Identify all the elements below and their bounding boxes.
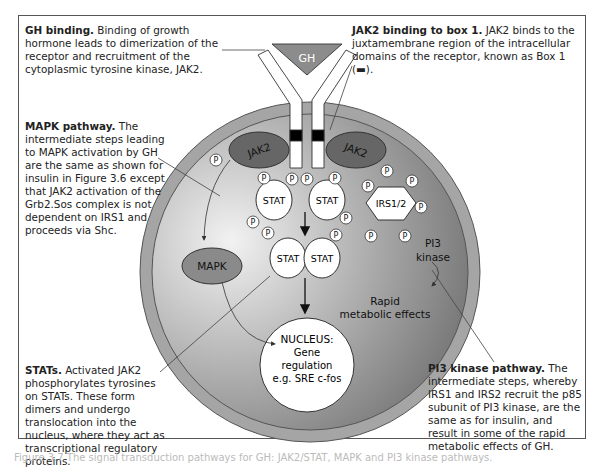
p-label: P [333, 174, 338, 183]
rapid-label: Rapid [370, 295, 400, 307]
p-label: P [410, 177, 415, 186]
p-label: P [290, 175, 295, 184]
mapk-label: MAPK [197, 260, 228, 272]
metabolic-effects-label: metabolic effects [340, 308, 431, 320]
annotation-gh-binding: GH binding. Binding of growth hormone le… [25, 24, 220, 76]
annotation-jak2-box1: JAK2 binding to box 1. JAK2 binds to the… [352, 24, 584, 76]
p-label: P [305, 175, 310, 184]
p-label: P [334, 231, 339, 240]
p-label: P [419, 203, 424, 212]
annotation-title: GH binding. [25, 24, 94, 36]
pi3-label: PI3 [425, 237, 441, 249]
stat-label: STAT [277, 253, 300, 264]
nucleus-line: regulation [282, 360, 333, 371]
p-label: P [385, 167, 390, 176]
nucleus-title: NUCLEUS: [280, 333, 333, 345]
nucleus-line: e.g. SRE c-fos [273, 373, 342, 384]
box1-right [312, 130, 324, 141]
annotation-title: STATs. [25, 364, 62, 376]
p-label: P [366, 182, 371, 191]
p-label: P [262, 174, 267, 183]
nucleus-line: Gene [294, 347, 320, 358]
stat-label: STAT [263, 195, 286, 206]
box1-left [290, 130, 302, 141]
annotation-body: The intermediate steps, whereby IRS1 and… [428, 362, 582, 452]
stat-label: STAT [316, 195, 339, 206]
irs-label: IRS1/2 [376, 198, 407, 209]
annotation-title: JAK2 binding to box 1. [352, 24, 482, 36]
hormone-label: GH [299, 52, 316, 65]
figure-caption: Figure 3.7 The signal transduction pathw… [14, 452, 594, 466]
annotation-title: MAPK pathway. [25, 120, 116, 132]
p-label: P [266, 229, 271, 238]
p-label: P [214, 156, 219, 165]
annotation-mapk: MAPK pathway. The intermediate steps lea… [25, 120, 167, 237]
kinase-label: kinase [416, 251, 450, 263]
stat-label: STAT [311, 253, 334, 264]
annotation-body: The intermediate steps leading to MAPK a… [25, 120, 165, 236]
annotation-title: PI3 kinase pathway. [428, 362, 545, 374]
p-label: P [369, 232, 374, 241]
annotation-pi3k: PI3 kinase pathway. The intermediate ste… [428, 362, 583, 453]
p-label: P [344, 214, 349, 223]
p-label: P [403, 232, 408, 241]
p-label: P [251, 218, 256, 227]
